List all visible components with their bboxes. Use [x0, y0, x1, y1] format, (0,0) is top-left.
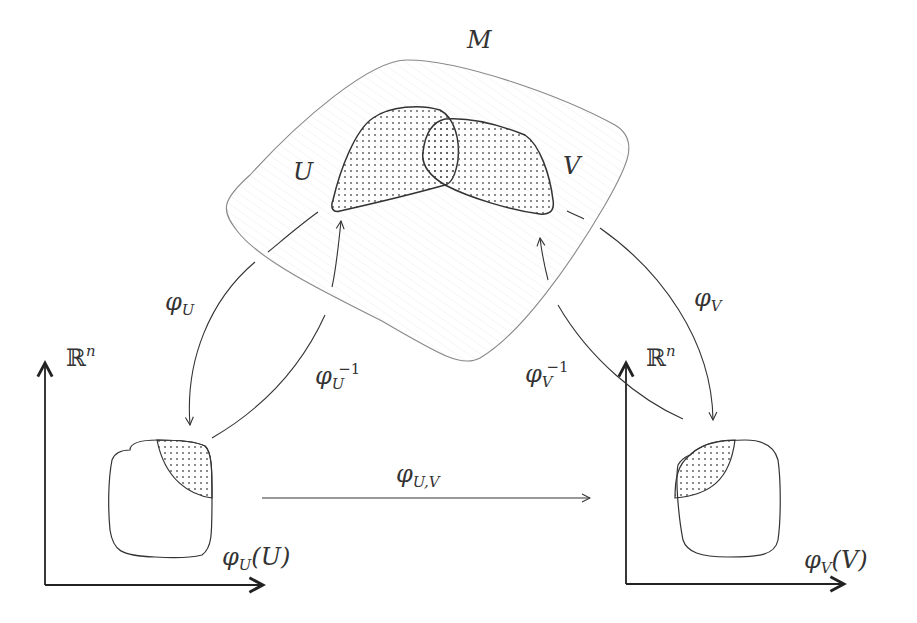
- image-v-subscript: V: [821, 559, 832, 577]
- chart-image-u-label: φU(U): [222, 545, 290, 573]
- left-space-label: ℝn: [66, 344, 96, 370]
- right-space-label: ℝn: [646, 344, 676, 370]
- transition-label: φU,V: [396, 462, 439, 490]
- image-v-argument: (V): [832, 546, 868, 574]
- chart-u-label: φU: [165, 290, 194, 318]
- open-set-u-label: U: [293, 160, 313, 184]
- chart-u-subscript: U: [182, 301, 195, 319]
- manifold-outline: [226, 60, 629, 361]
- left-space-exponent: n: [86, 342, 96, 360]
- chart-v-subscript: V: [711, 297, 722, 315]
- chart-u-inverse-superscript: −1: [338, 360, 360, 378]
- chart-v-inverse-label: φV−1: [525, 360, 569, 390]
- chart-v-symbol: φ: [694, 284, 711, 312]
- diagram-canvas: [0, 0, 917, 623]
- arrow-phi-v: [567, 211, 713, 420]
- manifold-label: M: [467, 28, 492, 52]
- chart-image-v-label: φV(V): [804, 548, 868, 576]
- transition-symbol: φ: [396, 460, 413, 488]
- transition-subscript: U,V: [413, 473, 440, 491]
- chart-v-inverse-superscript: −1: [547, 358, 569, 376]
- image-u-symbol: φ: [222, 543, 239, 571]
- image-u-subscript: U: [239, 556, 252, 574]
- chart-u-symbol: φ: [165, 288, 182, 316]
- image-v-symbol: φ: [804, 546, 821, 574]
- left-space-symbol: ℝ: [66, 344, 86, 372]
- right-space-symbol: ℝ: [646, 344, 666, 372]
- chart-v-inverse-symbol: φ: [525, 360, 542, 388]
- chart-u-inverse-label: φU−1: [315, 362, 360, 392]
- image-u-argument: (U): [251, 543, 290, 571]
- chart-u-inverse-symbol: φ: [315, 362, 332, 390]
- open-set-v-label: V: [563, 154, 580, 178]
- right-space-exponent: n: [666, 342, 676, 360]
- chart-v-label: φV: [694, 286, 722, 314]
